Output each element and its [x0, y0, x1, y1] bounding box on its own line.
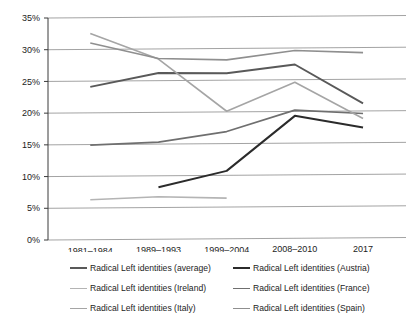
- x-axis-label-4: 2017: [353, 244, 373, 252]
- gridlines-group: [48, 16, 406, 241]
- y-axis-label-15: 15%: [22, 140, 40, 150]
- x-axis-label-1: 1989–1993: [136, 245, 181, 252]
- y-axis-label-30: 30%: [22, 45, 40, 55]
- gridline-10: [48, 174, 406, 177]
- ytick-labels-group: 0%5%10%15%20%25%30%35%: [22, 13, 40, 245]
- legend-item-average: Radical Left identities (average): [70, 258, 233, 278]
- gridline-0: [48, 238, 406, 241]
- x-axis-label-2: 1999–2004: [204, 245, 249, 252]
- series-line-3: [90, 110, 363, 145]
- y-axis-label-20: 20%: [22, 108, 40, 118]
- legend-swatch-italy: [70, 308, 87, 309]
- legend-item-spain: Radical Left identities (Spain): [233, 298, 414, 318]
- series-line-2: [90, 197, 226, 200]
- xtick-labels-group: 1981–19841989–19931999–20042008–20102017: [68, 244, 373, 252]
- gridline-25: [48, 79, 406, 82]
- series-line-4: [90, 34, 363, 119]
- legend-item-italy: Radical Left identities (Italy): [70, 298, 233, 318]
- y-axis-label-0: 0%: [27, 235, 40, 245]
- legend-swatch-spain: [233, 308, 250, 309]
- y-axis-label-10: 10%: [22, 172, 40, 182]
- gridline-5: [48, 206, 406, 209]
- legend-item-austria: Radical Left identities (Austria): [233, 258, 414, 278]
- x-axis-label-0: 1981–1984: [68, 246, 113, 252]
- chart-legend: Radical Left identities (average) Radica…: [0, 258, 414, 320]
- x-axis-label-3: 2008–2010: [272, 244, 317, 252]
- axis-group: [44, 18, 48, 240]
- legend-label-spain: Radical Left identities (Spain): [253, 304, 365, 313]
- legend-label-france: Radical Left identities (France): [253, 284, 370, 293]
- gridline-35: [48, 16, 406, 19]
- legend-item-ireland: Radical Left identities (Ireland): [70, 278, 233, 298]
- gridline-30: [48, 47, 406, 50]
- legend-label-austria: Radical Left identities (Austria): [253, 264, 370, 273]
- y-axis-label-35: 35%: [22, 13, 40, 23]
- series-line-1: [158, 116, 363, 187]
- series-line-5: [90, 43, 363, 60]
- plot-area: 0%5%10%15%20%25%30%35% 1981–19841989–199…: [0, 0, 414, 252]
- legend-label-average: Radical Left identities (average): [90, 264, 211, 273]
- legend-swatch-ireland: [70, 288, 87, 289]
- y-axis-label-5: 5%: [27, 203, 40, 213]
- chart-container: 0%5%10%15%20%25%30%35% 1981–19841989–199…: [0, 0, 414, 320]
- line-chart-svg: 0%5%10%15%20%25%30%35% 1981–19841989–199…: [0, 0, 414, 252]
- legend-swatch-austria: [233, 267, 250, 269]
- legend-swatch-average: [70, 267, 87, 269]
- legend-item-france: Radical Left identities (France): [233, 278, 414, 298]
- y-axis-label-25: 25%: [22, 77, 40, 87]
- legend-swatch-france: [233, 288, 250, 289]
- legend-label-italy: Radical Left identities (Italy): [90, 304, 196, 313]
- legend-label-ireland: Radical Left identities (Ireland): [90, 284, 206, 293]
